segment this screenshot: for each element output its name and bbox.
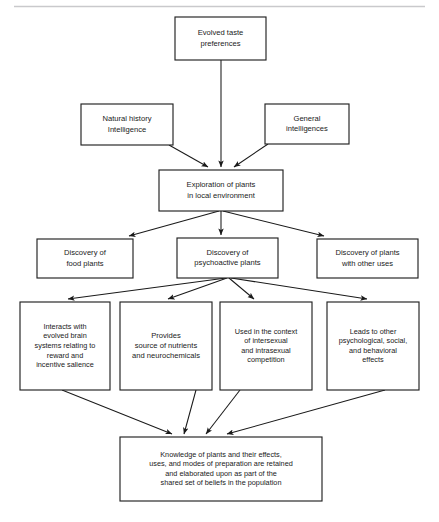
- edge-exploration-to-food-plants: [129, 211, 219, 236]
- node-general-intelligences[interactable]: Generalintelligences: [265, 104, 349, 144]
- node-label-line: with other uses: [341, 259, 393, 268]
- node-label-other-uses: Discovery of plantswith other uses: [335, 248, 399, 267]
- node-label-line: preferences: [200, 39, 240, 48]
- node-label-exploration: Exploration of plantsin local environmen…: [187, 180, 256, 199]
- edge-intersexual-to-knowledge: [206, 390, 240, 434]
- node-label-line: intelligences: [286, 124, 328, 133]
- node-label-line: General: [293, 114, 320, 123]
- edge-other-effects-to-knowledge: [227, 390, 385, 434]
- node-label-line: uses, and modes of preparation are retai…: [149, 459, 293, 468]
- node-label-line: shared set of beliefs in the population: [161, 478, 282, 487]
- node-label-line: Discovery of: [64, 248, 107, 257]
- node-label-line: effects: [362, 355, 384, 364]
- node-label-line: evolved brain: [43, 331, 86, 340]
- edge-general-intelligences-to-exploration: [234, 144, 268, 167]
- node-label-line: Exploration of plants: [187, 180, 256, 189]
- edge-natural-history-to-exploration: [169, 145, 208, 167]
- node-label-line: Discovery of: [207, 248, 250, 257]
- node-label-line: psychological, social,: [339, 336, 408, 345]
- node-label-line: Natural history: [103, 114, 152, 123]
- node-psychoactive-plants[interactable]: Discovery ofpsychoactive plants: [177, 238, 278, 278]
- node-label-line: Evolved taste: [198, 28, 244, 37]
- node-label-line: in local environment: [187, 191, 255, 200]
- node-label-line: and behavioral: [349, 346, 397, 355]
- node-layer: Evolved tastepreferencesNatural historyI…: [20, 17, 419, 501]
- node-other-effects[interactable]: Leads to otherpsychological, social,and …: [327, 302, 419, 390]
- node-label-line: and intrasexual: [241, 346, 291, 355]
- edge-interacts-brain-to-knowledge: [62, 390, 172, 434]
- node-intersexual[interactable]: Used in the contextof intersexualand int…: [220, 302, 312, 390]
- flowchart-canvas: Evolved tastepreferencesNatural historyI…: [0, 0, 439, 522]
- node-knowledge[interactable]: Knowledge of plants and their effects,us…: [120, 437, 322, 501]
- node-nutrients[interactable]: Providessource of nutrientsand neurochem…: [120, 302, 212, 390]
- node-label-line: reward and: [47, 351, 84, 360]
- node-interacts-brain[interactable]: Interacts withevolved brainsystems relat…: [20, 302, 110, 390]
- flowchart-diagram: Evolved tastepreferencesNatural historyI…: [0, 0, 439, 522]
- node-label-line: Interacts with: [44, 322, 87, 331]
- edge-psychoactive-to-other-effects: [231, 278, 367, 299]
- node-label-line: competition: [247, 355, 284, 364]
- edge-nutrients-to-knowledge: [184, 390, 196, 434]
- node-label-line: Intelligence: [108, 125, 146, 134]
- node-other-uses[interactable]: Discovery of plantswith other uses: [317, 239, 418, 278]
- node-label-food-plants: Discovery offood plants: [64, 248, 107, 267]
- node-label-line: source of nutrients: [135, 341, 198, 350]
- node-label-evolved-taste: Evolved tastepreferences: [198, 28, 244, 47]
- node-label-line: and neurochemicals: [132, 351, 200, 360]
- node-label-line: of intersexual: [244, 336, 288, 345]
- edge-psychoactive-to-nutrients: [168, 278, 227, 299]
- node-exploration[interactable]: Exploration of plantsin local environmen…: [159, 170, 283, 211]
- node-label-line: Knowledge of plants and their effects,: [160, 450, 282, 459]
- node-label-line: Leads to other: [350, 327, 397, 336]
- node-label-knowledge: Knowledge of plants and their effects,us…: [149, 450, 293, 488]
- node-label-line: and elaborated upon as part of the: [165, 469, 277, 478]
- node-label-line: Discovery of plants: [335, 248, 399, 257]
- node-label-line: Used in the context: [235, 327, 297, 336]
- node-label-line: incentive salience: [36, 360, 94, 369]
- node-evolved-taste[interactable]: Evolved tastepreferences: [175, 17, 266, 60]
- node-food-plants[interactable]: Discovery offood plants: [37, 239, 133, 278]
- node-label-interacts-brain: Interacts withevolved brainsystems relat…: [35, 322, 96, 369]
- node-label-line: Provides: [151, 331, 181, 340]
- node-label-line: systems relating to: [35, 341, 96, 350]
- node-label-natural-history: Natural historyIntelligence: [103, 114, 152, 133]
- edge-exploration-to-other-uses: [223, 211, 324, 236]
- node-label-line: food plants: [66, 259, 103, 268]
- node-natural-history[interactable]: Natural historyIntelligence: [81, 104, 173, 145]
- edge-psychoactive-to-interacts-brain: [68, 278, 226, 299]
- node-label-line: psychoactive plants: [194, 258, 260, 267]
